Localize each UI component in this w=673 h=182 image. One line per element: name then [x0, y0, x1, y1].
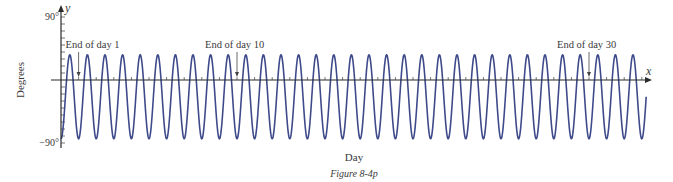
- x-axis-symbol: x: [645, 64, 652, 78]
- annotation-arrowhead-icon: [77, 72, 81, 77]
- annotation-label: End of day 30: [557, 39, 616, 50]
- data-curve: [61, 55, 646, 139]
- annotation-label: End of day 1: [66, 39, 120, 50]
- y-axis-symbol: y: [64, 1, 71, 15]
- x-axis-label: Day: [345, 151, 364, 163]
- annotation-arrowhead-icon: [587, 72, 591, 77]
- y-tick-label-90: 90°: [45, 11, 59, 22]
- figure-caption: Figure 8-4p: [329, 168, 378, 179]
- annotation-end-of-day-1: End of day 1: [66, 39, 120, 77]
- y-axis-label: Degrees: [14, 62, 26, 98]
- annotations: End of day 1End of day 10End of day 30: [66, 39, 617, 77]
- y-tick-label-neg90: −90°: [39, 137, 59, 148]
- annotation-label: End of day 10: [205, 39, 264, 50]
- sinusoid-chart: x y 90° −90° Degrees Day Figure 8-4p End…: [0, 0, 673, 182]
- annotation-arrowhead-icon: [235, 72, 239, 77]
